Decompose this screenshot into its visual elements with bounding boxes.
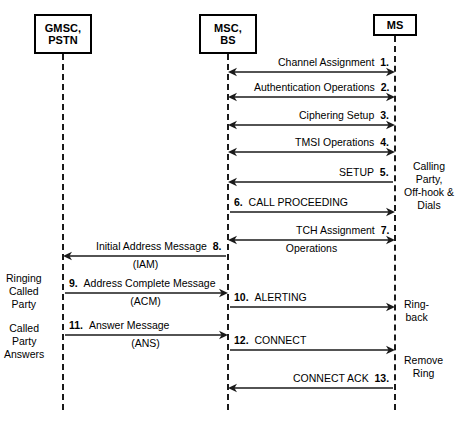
- message-text-12: CONNECT: [254, 334, 306, 346]
- annotation-ringing-called-party: RingingCalledParty: [6, 272, 42, 311]
- actor-label-line1: GMSC,: [45, 22, 82, 35]
- message-number-6: 6.: [234, 196, 243, 208]
- annotation-line: Remove: [404, 354, 443, 367]
- annotation-line: Party: [4, 335, 44, 348]
- message-text-10: ALERTING: [254, 291, 306, 303]
- message-sublabel-7: Operations: [228, 243, 395, 255]
- arrow: [228, 384, 393, 392]
- actor-label-line1: MSC,: [214, 22, 242, 35]
- lifeline-gmsc: [62, 54, 64, 410]
- annotation-line: back: [404, 311, 429, 324]
- arrow: [230, 303, 395, 311]
- actor-label-line1: MS: [387, 19, 404, 32]
- message-text-7: TCH Assignment: [296, 224, 375, 236]
- message-number-13: 13.: [375, 372, 390, 384]
- annotation-called-party-answers: CalledPartyAnswers: [4, 322, 44, 361]
- lifeline-msc: [227, 54, 229, 410]
- message-number-4: 4.: [380, 136, 389, 148]
- message-text-8: Initial Address Message: [96, 240, 207, 252]
- message-label-8: Initial Address Message 8.: [96, 241, 222, 253]
- message-text-1: Channel Assignment: [278, 56, 374, 68]
- annotation-line: Called: [6, 285, 42, 298]
- annotation-line: Called: [4, 322, 44, 335]
- annotation-line: Dials: [404, 199, 454, 212]
- arrow: [230, 346, 395, 354]
- actor-box-msc: MSC,BS: [199, 14, 257, 54]
- message-text-6: CALL PROCEEDING: [249, 196, 348, 208]
- message-text-2: Authentication Operations: [254, 81, 375, 93]
- annotation-remove-ring: RemoveRing: [404, 354, 443, 380]
- annotation-line: Ring: [404, 367, 443, 380]
- message-label-1: Channel Assignment 1.: [278, 57, 389, 69]
- message-sublabel-8: (IAM): [63, 259, 228, 271]
- annotation-calling-party: CallingParty,Off-hook &Dials: [404, 160, 454, 212]
- message-text-13: CONNECT ACK: [293, 372, 369, 384]
- message-number-1: 1.: [380, 56, 389, 68]
- arrow-layer: [0, 0, 473, 426]
- annotation-line: Party,: [404, 173, 454, 186]
- message-label-13: CONNECT ACK 13.: [293, 373, 389, 385]
- actor-box-gmsc: GMSC,PSTN: [34, 14, 92, 54]
- arrow: [228, 121, 395, 129]
- sequence-diagram: GMSC,PSTNMSC,BSMS Channel Assignment 1.A…: [0, 0, 473, 426]
- lifeline-ms: [394, 36, 396, 410]
- message-label-3: Ciphering Setup 3.: [299, 110, 389, 122]
- message-number-7: 7.: [381, 224, 390, 236]
- annotation-line: Ring-: [404, 298, 429, 311]
- arrow: [228, 93, 395, 101]
- message-label-11: 11. Answer Message: [69, 320, 169, 332]
- annotation-line: Answers: [4, 348, 44, 361]
- annotation-ring-back: Ring-back: [404, 298, 429, 324]
- arrow: [228, 68, 395, 76]
- message-label-7: TCH Assignment 7.: [296, 225, 389, 237]
- message-number-5: 5.: [380, 166, 389, 178]
- message-label-12: 12. CONNECT: [234, 335, 306, 347]
- message-label-4: TMSI Operations 4.: [295, 137, 389, 149]
- arrow: [228, 178, 393, 186]
- message-number-2: 2.: [381, 81, 390, 93]
- annotation-line: Calling: [404, 160, 454, 173]
- message-text-4: TMSI Operations: [295, 136, 374, 148]
- message-number-3: 3.: [380, 109, 389, 121]
- message-label-6: 6. CALL PROCEEDING: [234, 197, 348, 209]
- message-label-5: SETUP 5.: [339, 167, 389, 179]
- message-label-10: 10. ALERTING: [234, 292, 307, 304]
- message-text-11: Answer Message: [89, 319, 170, 331]
- message-number-12: 12.: [234, 334, 249, 346]
- message-label-2: Authentication Operations 2.: [254, 82, 389, 94]
- message-text-3: Ciphering Setup: [299, 109, 374, 121]
- annotation-line: Party: [6, 298, 42, 311]
- arrow: [230, 208, 395, 216]
- actor-box-ms: MS: [373, 14, 417, 36]
- message-label-9: 9. Address Complete Message: [69, 278, 216, 290]
- message-number-8: 8.: [213, 240, 222, 252]
- annotation-line: Ringing: [6, 272, 42, 285]
- message-number-10: 10.: [234, 291, 249, 303]
- message-text-5: SETUP: [339, 166, 374, 178]
- annotation-line: Off-hook &: [404, 186, 454, 199]
- message-text-9: Address Complete Message: [84, 277, 216, 289]
- arrow: [228, 148, 395, 156]
- actor-label-line2: PSTN: [48, 34, 78, 47]
- actor-label-line2: BS: [220, 34, 235, 47]
- message-sublabel-9: (ACM): [63, 296, 228, 308]
- message-number-9: 9.: [69, 277, 78, 289]
- message-sublabel-11: (ANS): [63, 338, 228, 350]
- message-number-11: 11.: [69, 319, 83, 331]
